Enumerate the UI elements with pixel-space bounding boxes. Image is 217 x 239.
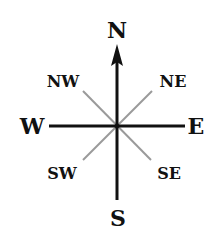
- label-northeast: NE: [160, 72, 187, 91]
- center-point: [115, 124, 119, 128]
- compass-rose: N S W E NW NE SW SE: [0, 0, 217, 239]
- label-southwest: SW: [47, 164, 78, 183]
- label-west: W: [19, 113, 45, 139]
- label-east: E: [188, 113, 205, 139]
- label-north: N: [107, 17, 127, 43]
- label-south: S: [110, 205, 126, 231]
- label-southeast: SE: [157, 164, 181, 183]
- compass-rose-svg: N S W E NW NE SW SE: [0, 0, 217, 239]
- label-northwest: NW: [47, 72, 81, 91]
